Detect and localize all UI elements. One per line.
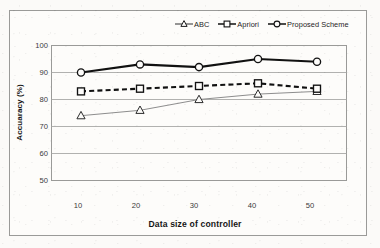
data-point[interactable]: [136, 61, 143, 68]
data-point[interactable]: [254, 55, 261, 62]
chart-figure: ABC Apriori Proposed Scheme 100 90 80 70…: [0, 0, 380, 248]
data-point[interactable]: [314, 85, 321, 92]
plot-area: [0, 0, 380, 248]
data-point[interactable]: [78, 88, 85, 95]
data-point[interactable]: [77, 69, 84, 76]
data-point[interactable]: [195, 64, 202, 71]
data-point[interactable]: [137, 85, 144, 92]
data-point[interactable]: [313, 58, 320, 65]
data-point[interactable]: [196, 83, 203, 90]
data-point[interactable]: [255, 80, 262, 87]
